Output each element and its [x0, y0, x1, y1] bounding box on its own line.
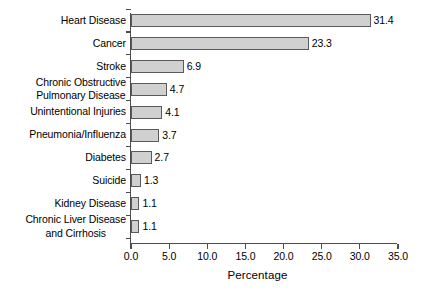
category-label-line: Suicide — [92, 174, 126, 186]
bar — [131, 14, 371, 27]
y-axis-tick — [126, 169, 131, 170]
bar-value-label: 3.7 — [162, 129, 176, 142]
bar — [131, 220, 139, 233]
bar — [131, 197, 139, 210]
y-axis-tick — [126, 238, 131, 239]
x-axis-tick — [321, 244, 322, 249]
bar-value-label: 4.1 — [165, 106, 179, 119]
bar-value-label: 1.1 — [142, 197, 156, 210]
y-axis-tick — [126, 100, 131, 101]
x-axis-tick-label: 25.0 — [302, 250, 342, 263]
category-label: Pneumonia/Influenza — [29, 128, 126, 142]
y-axis-tick — [126, 146, 131, 147]
bar-value-label: 23.3 — [312, 37, 332, 50]
category-label-line: and Cirrhosis — [25, 227, 126, 241]
bar — [131, 83, 167, 96]
y-axis-tick — [126, 123, 131, 124]
category-label: Stroke — [96, 60, 126, 74]
bar — [131, 129, 159, 142]
y-axis-tick — [126, 192, 131, 193]
x-axis-tick-label: 35.0 — [378, 250, 418, 263]
category-label: Cancer — [93, 37, 126, 51]
bar — [131, 174, 141, 187]
y-axis-tick — [126, 54, 131, 55]
category-label: Kidney Disease — [54, 197, 126, 211]
x-axis-tick — [397, 244, 398, 249]
y-axis-tick — [126, 77, 131, 78]
bar — [131, 106, 162, 119]
category-label-line: Chronic Liver Disease — [25, 213, 126, 225]
bar — [131, 60, 184, 73]
category-label-line: Chronic Obstructive — [36, 76, 126, 88]
bar-value-label: 1.3 — [144, 174, 158, 187]
x-axis-tick — [207, 244, 208, 249]
y-axis-tick — [126, 215, 131, 216]
category-label: Heart Disease — [61, 14, 126, 28]
x-axis-tick — [130, 244, 131, 249]
x-axis-title: Percentage — [0, 269, 447, 281]
x-axis-tick — [245, 244, 246, 249]
x-axis-tick-label: 0.0 — [111, 250, 151, 263]
category-label: Diabetes — [85, 151, 126, 165]
x-axis-tick-label: 15.0 — [225, 250, 265, 263]
bar-value-label: 31.4 — [374, 14, 394, 27]
category-label-line: Kidney Disease — [54, 197, 126, 209]
y-axis-tick — [126, 9, 131, 10]
bar — [131, 151, 152, 164]
category-label-line: Stroke — [96, 60, 126, 72]
x-axis-tick-label: 20.0 — [264, 250, 304, 263]
category-label-line: Pulmonary Disease — [36, 89, 126, 103]
category-label-line: Cancer — [93, 37, 126, 49]
x-axis-tick-label: 10.0 — [187, 250, 227, 263]
category-label: Chronic Liver Diseaseand Cirrhosis — [25, 213, 126, 240]
bar-value-label: 6.9 — [187, 60, 201, 73]
x-axis-tick — [359, 244, 360, 249]
bar-value-label: 1.1 — [142, 220, 156, 233]
bar — [131, 37, 309, 50]
x-axis-line — [130, 243, 397, 244]
category-label-line: Diabetes — [85, 151, 126, 163]
x-axis-tick — [283, 244, 284, 249]
category-label: Unintentional Injuries — [30, 105, 126, 119]
y-axis-tick — [126, 31, 131, 32]
category-label-line: Unintentional Injuries — [30, 105, 126, 117]
bar-chart: Heart DiseaseCancerStrokeChronic Obstruc… — [0, 0, 447, 293]
category-label-line: Pneumonia/Influenza — [29, 128, 126, 140]
category-label: Chronic ObstructivePulmonary Disease — [36, 76, 126, 103]
bar-value-label: 2.7 — [155, 151, 169, 164]
x-axis-tick-label: 5.0 — [149, 250, 189, 263]
category-label: Suicide — [92, 174, 126, 188]
x-axis-tick-label: 30.0 — [340, 250, 380, 263]
category-label-line: Heart Disease — [61, 14, 126, 26]
x-axis-title-text: Percentage — [228, 269, 288, 281]
x-axis-tick — [169, 244, 170, 249]
bar-value-label: 4.7 — [170, 83, 184, 96]
